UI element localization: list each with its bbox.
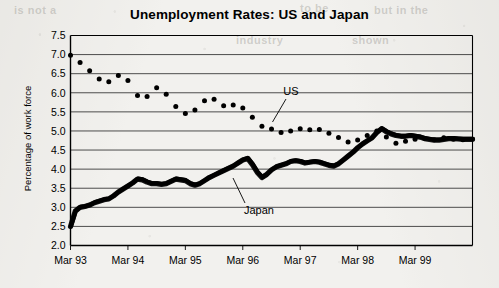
series-us-dots xyxy=(68,53,465,146)
us-data-point xyxy=(250,115,255,120)
us-data-point xyxy=(87,68,92,73)
us-data-point xyxy=(288,128,293,133)
y-tick-label: 6.5 xyxy=(51,67,66,79)
us-data-point xyxy=(154,85,159,90)
us-data-point xyxy=(231,102,236,107)
y-tick-label: 4.5 xyxy=(51,144,66,156)
us-data-point xyxy=(221,103,226,108)
us-data-point xyxy=(202,98,207,103)
y-tick-label: 7.5 xyxy=(51,29,66,41)
x-tick-label: Mar 99 xyxy=(399,254,432,266)
chart-plot: 7.57.06.56.05.55.04.54.03.53.02.52.0 Mar… xyxy=(0,0,499,288)
gridlines xyxy=(71,55,473,227)
y-tick-label: 6.0 xyxy=(51,87,66,99)
y-tick-label: 4.0 xyxy=(51,163,66,175)
y-tick-label: 2.0 xyxy=(51,239,66,251)
us-data-point xyxy=(393,141,398,146)
y-tick-label: 2.5 xyxy=(51,220,66,232)
x-tick-label: Mar 95 xyxy=(169,254,202,266)
us-leader-line xyxy=(273,99,287,122)
y-tick-label: 5.0 xyxy=(51,125,66,137)
us-data-point xyxy=(68,53,73,58)
series-annotations: USJapan xyxy=(233,85,299,216)
x-tick-label: Mar 96 xyxy=(226,254,259,266)
us-data-point xyxy=(192,107,197,112)
us-data-point xyxy=(135,93,140,98)
x-tick-label: Mar 94 xyxy=(112,254,145,266)
us-data-point xyxy=(298,126,303,131)
us-data-point xyxy=(183,111,188,116)
x-tick-label: Mar 97 xyxy=(284,254,317,266)
us-data-point xyxy=(78,60,83,65)
us-series-label: US xyxy=(283,85,298,97)
us-data-point xyxy=(173,104,178,109)
japan-leader-line xyxy=(233,178,245,203)
y-tick-label: 5.5 xyxy=(51,106,66,118)
us-data-point xyxy=(106,79,111,84)
x-tick-label: Mar 93 xyxy=(54,254,87,266)
us-data-point xyxy=(374,128,379,133)
us-data-point xyxy=(384,135,389,140)
us-data-point xyxy=(145,94,150,99)
us-data-point xyxy=(326,131,331,136)
us-data-point xyxy=(97,77,102,82)
japan-series-label: Japan xyxy=(244,204,274,216)
x-tick-label: Mar 98 xyxy=(341,254,374,266)
us-data-point xyxy=(451,137,456,142)
us-data-point xyxy=(413,137,418,142)
us-data-point xyxy=(259,124,264,129)
us-data-point xyxy=(317,127,322,132)
y-tick-label: 3.0 xyxy=(51,201,66,213)
us-data-point xyxy=(125,78,130,83)
us-data-point xyxy=(441,135,446,140)
us-data-point xyxy=(422,136,427,141)
us-data-point xyxy=(432,137,437,142)
us-data-point xyxy=(355,138,360,143)
us-data-point xyxy=(212,97,217,102)
us-data-point xyxy=(365,133,370,138)
us-data-point xyxy=(403,139,408,144)
y-tick-label: 3.5 xyxy=(51,182,66,194)
y-tick-label: 7.0 xyxy=(51,48,66,60)
us-data-point xyxy=(307,127,312,132)
us-data-point xyxy=(346,140,351,145)
us-data-point xyxy=(336,135,341,140)
chart-page: is not ato bebut in theindustryshown Une… xyxy=(0,0,499,288)
x-axis-tick-labels: Mar 93Mar 94Mar 95Mar 96Mar 97Mar 98Mar … xyxy=(54,254,431,266)
us-data-point xyxy=(269,127,274,132)
us-data-point xyxy=(164,92,169,97)
us-data-point xyxy=(240,106,245,111)
us-data-point xyxy=(460,137,465,142)
y-axis-tick-labels: 7.57.06.56.05.55.04.54.03.53.02.52.0 xyxy=(51,29,66,251)
us-data-point xyxy=(279,130,284,135)
us-data-point xyxy=(116,73,121,78)
